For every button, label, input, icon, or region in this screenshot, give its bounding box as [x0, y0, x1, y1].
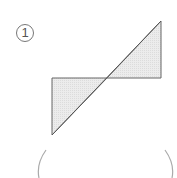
right-answer-bracket: [165, 150, 173, 178]
figure-canvas: [0, 0, 177, 178]
answer-blank[interactable]: [50, 155, 162, 177]
left-answer-bracket: [38, 150, 46, 178]
